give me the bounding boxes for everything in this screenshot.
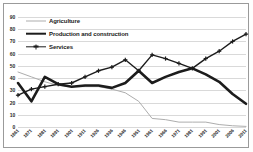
x-axis-tick-label: 1966 <box>158 129 168 139</box>
y-axis-tick-label: 60 <box>10 51 15 56</box>
y-axis-tick-label: 90 <box>10 15 15 20</box>
x-axis-tick-label: 1951 <box>131 129 141 139</box>
line-swatch-icon <box>26 16 46 26</box>
data-point-marker <box>96 69 100 73</box>
y-axis-tick-label: 50 <box>10 63 15 68</box>
x-axis-tick-label: 1881 <box>37 129 47 139</box>
legend-label: Production and construction <box>49 31 128 37</box>
data-point-marker <box>29 87 33 91</box>
y-axis-tick-label: 80 <box>10 27 15 32</box>
line-cross-swatch-icon <box>26 42 46 52</box>
legend-item-production-and-construction: Production and construction <box>26 27 128 40</box>
y-axis-tick-label: 70 <box>10 39 15 44</box>
data-point-marker <box>43 85 47 89</box>
x-axis-tick-label: 2006 <box>225 129 235 139</box>
x-axis-tick-label: 1871 <box>24 129 34 139</box>
series-line-production-and-construction <box>18 68 246 103</box>
y-axis-tick-label: 40 <box>10 76 15 81</box>
data-point-marker <box>83 75 87 79</box>
x-axis-tick-label: 1936 <box>104 129 114 139</box>
y-axis-tick-label: 20 <box>10 100 15 105</box>
x-axis-tick-label: 1901 <box>64 129 74 139</box>
chart-figure: 0102030405060708090 18611871188118911901… <box>0 0 253 152</box>
x-axis-tick-label: 2001 <box>211 129 221 139</box>
x-axis-tick-label: 1981 <box>185 129 195 139</box>
x-axis-tick-label: 1971 <box>171 129 181 139</box>
data-point-marker <box>70 81 74 85</box>
y-axis-tick-label: 30 <box>10 88 15 93</box>
x-axis-tick-label: 1911 <box>77 129 87 139</box>
x-axis-tick-label: 1991 <box>198 129 208 139</box>
data-point-marker <box>163 56 167 60</box>
x-axis-tick-label: 1891 <box>50 129 60 139</box>
legend-item-agriculture: Agriculture <box>26 14 128 27</box>
x-axis-tick-label: 1961 <box>144 129 154 139</box>
y-axis-tick-label: 10 <box>10 112 15 117</box>
legend-label: Services <box>49 44 73 50</box>
chart-legend: Agriculture Production and construction … <box>26 14 128 53</box>
legend-label: Agriculture <box>49 18 80 24</box>
data-point-marker <box>177 61 181 65</box>
legend-item-services: Services <box>26 40 128 53</box>
line-swatch-icon <box>26 29 46 39</box>
x-axis-tick-label: 1926 <box>91 129 101 139</box>
x-axis-ticks: 1861187118811891190119111926193619461951… <box>18 128 246 152</box>
x-axis-tick-label: 1946 <box>118 129 128 139</box>
